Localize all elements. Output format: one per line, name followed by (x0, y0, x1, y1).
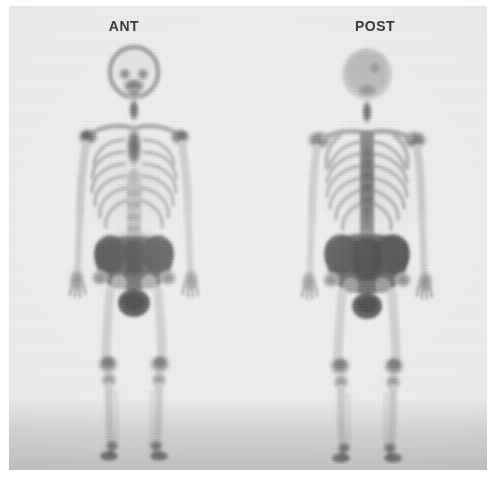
bone-scan-figure: ANT POST (0, 0, 496, 486)
view-label-anterior: ANT (109, 18, 139, 34)
scan-view-anterior (24, 40, 244, 464)
view-label-posterior: POST (355, 18, 395, 34)
posterior-skeleton-image (257, 40, 477, 464)
scan-film-background: ANT POST (9, 6, 487, 470)
anterior-skeleton-image (24, 40, 244, 464)
scan-view-posterior (257, 40, 477, 464)
